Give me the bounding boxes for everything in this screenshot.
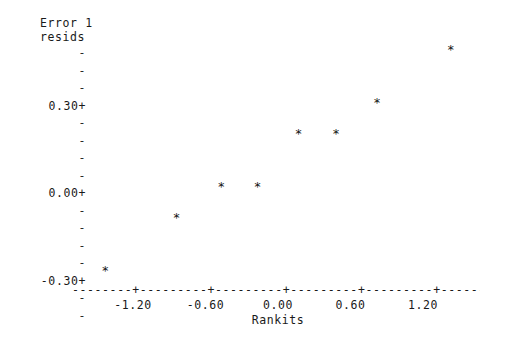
x-axis-tick-label: 0.60 bbox=[335, 298, 365, 312]
x-axis-tick-label: -1.20 bbox=[114, 298, 152, 312]
x-axis-tick-label: 1.20 bbox=[408, 298, 438, 312]
y-axis-tick-label: 0.00+ bbox=[0, 186, 86, 200]
y-axis-tick-label: 0.30+ bbox=[0, 99, 86, 113]
y-axis-minor-tick: - bbox=[0, 256, 86, 270]
data-point-marker: * bbox=[331, 128, 341, 140]
data-point-marker: * bbox=[100, 265, 110, 277]
data-point-marker: * bbox=[216, 181, 226, 193]
normal-probability-plot: Error 1 resids ---0.30+----0.00+-----0.3… bbox=[0, 0, 507, 339]
y-axis-minor-tick: - bbox=[0, 134, 86, 148]
data-point-marker: * bbox=[252, 181, 262, 193]
y-axis-minor-tick: - bbox=[0, 116, 86, 130]
y-axis-minor-tick: - bbox=[0, 151, 86, 165]
y-axis-minor-tick: - bbox=[0, 81, 86, 95]
x-axis-tick-label: 0.00 bbox=[263, 298, 293, 312]
data-point-marker: * bbox=[172, 212, 182, 224]
y-axis-minor-tick: - bbox=[0, 221, 86, 235]
y-axis-minor-tick: - bbox=[0, 204, 86, 218]
data-point-marker: * bbox=[446, 44, 456, 56]
x-axis-line: --------+---------+---------+---------+-… bbox=[72, 283, 480, 297]
y-axis-minor-tick: - bbox=[0, 64, 86, 78]
y-axis-title-line-1: Error 1 bbox=[40, 16, 93, 30]
x-axis-title: Rankits bbox=[252, 313, 305, 327]
y-axis-minor-tick: - bbox=[0, 239, 86, 253]
x-axis-tick-label: -0.60 bbox=[187, 298, 225, 312]
data-point-marker: * bbox=[372, 97, 382, 109]
y-axis-minor-tick: - bbox=[0, 309, 86, 323]
y-axis-minor-tick: - bbox=[0, 46, 86, 60]
data-point-marker: * bbox=[294, 128, 304, 140]
y-axis-title-line-2: resids bbox=[40, 30, 85, 44]
y-axis-minor-tick: - bbox=[0, 169, 86, 183]
